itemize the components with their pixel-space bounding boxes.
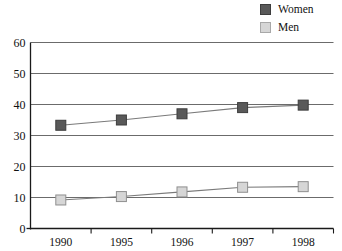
chart-container: Women Men 010203040506019901995199619971… [0, 0, 342, 251]
plot-area: 010203040506019901995199619971998 [0, 0, 342, 251]
data-point-marker-men [116, 192, 126, 202]
y-axis-tick-label: 10 [14, 191, 26, 205]
data-point-marker-men [177, 187, 187, 197]
y-axis-tick-label: 50 [14, 67, 26, 81]
data-point-marker-women [238, 103, 248, 113]
y-axis-tick-label: 60 [14, 36, 26, 50]
x-axis-tick-label: 1995 [110, 236, 133, 248]
data-point-marker-men [238, 182, 248, 192]
data-point-marker-women [177, 109, 187, 119]
data-point-marker-women [56, 120, 66, 130]
x-axis-tick-label: 1990 [49, 236, 72, 248]
x-axis-ticks: 19901995199619971998 [49, 229, 333, 248]
y-axis-tick-label: 20 [14, 160, 26, 174]
y-axis-tick-label: 30 [14, 129, 26, 143]
x-axis-tick-label: 1998 [292, 236, 315, 248]
series-men [56, 182, 308, 205]
y-axis-tick-label: 40 [14, 98, 26, 112]
x-axis-tick-label: 1997 [231, 236, 254, 248]
data-point-marker-women [298, 100, 308, 110]
y-gridlines: 0102030405060 [14, 36, 334, 236]
data-point-marker-men [56, 195, 66, 205]
y-axis-tick-label: 0 [20, 222, 26, 236]
data-point-marker-men [298, 182, 308, 192]
data-point-marker-women [116, 115, 126, 125]
x-axis-tick-label: 1996 [171, 236, 194, 248]
